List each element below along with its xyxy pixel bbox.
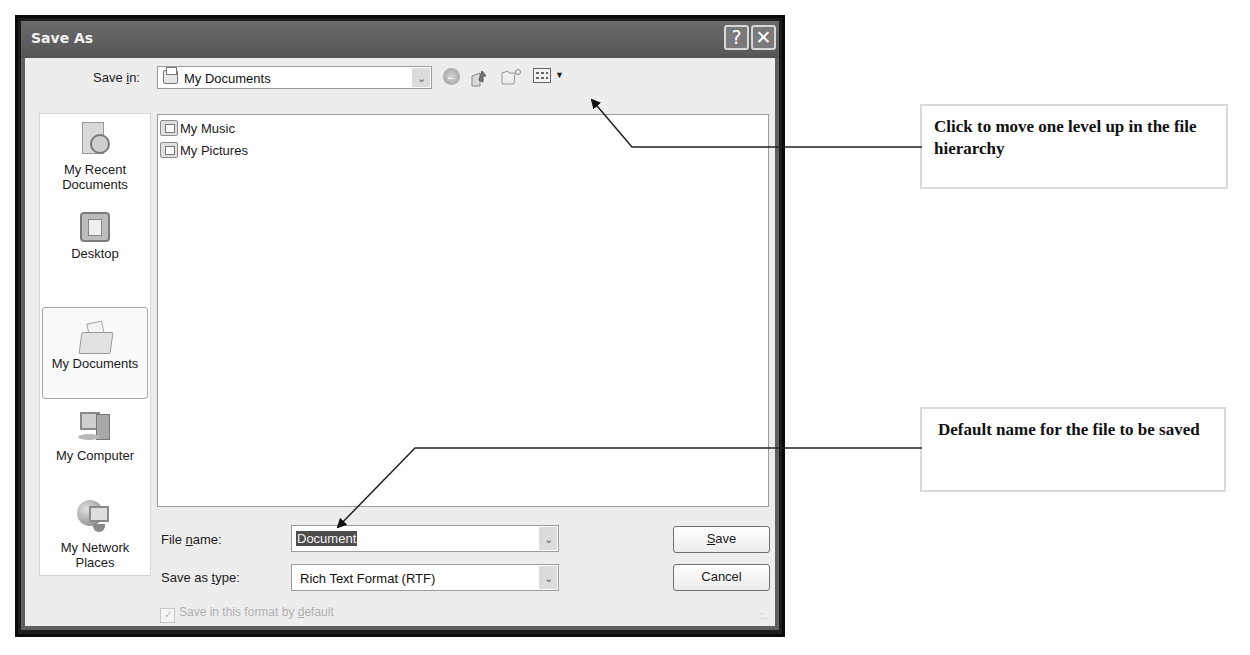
arrow-to-file-name [338, 448, 922, 527]
arrow-to-up-button [592, 100, 922, 147]
callout-arrows [0, 0, 1250, 655]
